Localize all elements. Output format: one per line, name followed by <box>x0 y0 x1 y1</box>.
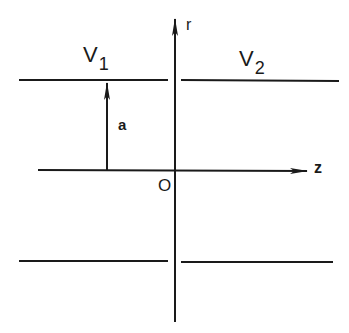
diagram-canvas: V1 V2 r z a O <box>0 0 349 333</box>
origin-label: O <box>158 177 171 194</box>
region-label-v1: V1 <box>83 44 109 73</box>
z-axis-arrow-icon <box>38 170 307 171</box>
z-axis-label: z <box>314 160 322 176</box>
upper-wall-right <box>181 80 339 81</box>
diagram-lines <box>0 0 349 333</box>
region-label-v1-subscript: 1 <box>99 54 109 74</box>
region-label-v2-name: V <box>239 46 254 71</box>
r-axis-label: r <box>186 17 191 33</box>
radius-label: a <box>118 117 126 132</box>
region-label-v1-name: V <box>83 42 98 67</box>
upper-wall <box>19 80 339 81</box>
region-label-v2: V2 <box>239 48 265 77</box>
region-label-v2-subscript: 2 <box>255 58 265 78</box>
